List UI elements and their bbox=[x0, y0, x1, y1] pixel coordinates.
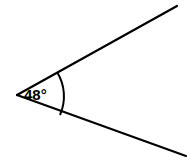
angle-diagram: 48° bbox=[0, 0, 194, 162]
ray-top bbox=[17, 6, 177, 95]
angle-arc bbox=[57, 72, 64, 115]
angle-label: 48° bbox=[24, 86, 47, 103]
ray-bottom bbox=[17, 95, 186, 156]
